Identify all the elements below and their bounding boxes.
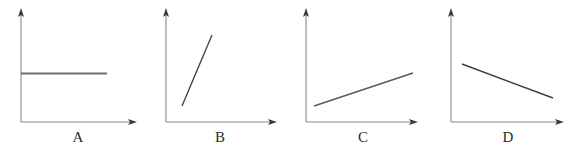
- panel-b: B: [145, 0, 295, 152]
- panel-d: D: [430, 0, 585, 152]
- panel-a-label: A: [58, 127, 98, 147]
- data-line-d: [462, 64, 553, 98]
- panel-d-label: D: [488, 127, 528, 147]
- panel-a: A: [0, 0, 150, 152]
- panel-c-label: C: [343, 127, 383, 147]
- panel-c: C: [285, 0, 435, 152]
- data-line-c: [314, 73, 413, 106]
- four-line-graphs-figure: A B C: [0, 0, 585, 152]
- data-line-b: [182, 35, 212, 106]
- panel-b-label: B: [200, 127, 240, 147]
